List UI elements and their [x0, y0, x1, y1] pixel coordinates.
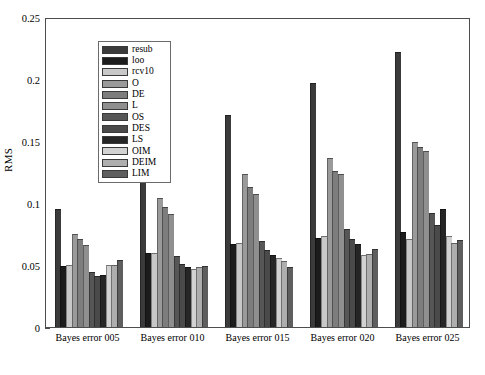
legend-item-label: LIM	[132, 169, 149, 179]
legend-swatch-icon	[102, 170, 128, 178]
legend-swatch-icon	[102, 147, 128, 155]
y-axis-tick-label: 0	[0, 323, 40, 334]
legend-item-LS[interactable]: LS	[101, 134, 168, 145]
legend-item-label: loo	[132, 56, 144, 66]
y-axis-title: RMS	[2, 148, 14, 172]
chart-container: RMS 00.050.10.150.20.25 resubloorcv10ODE…	[0, 0, 485, 375]
legend-swatch-icon	[102, 159, 128, 167]
y-axis-tick-label: 0.05	[0, 261, 40, 272]
legend-item-label: DE	[132, 90, 145, 100]
legend-swatch-icon	[102, 125, 128, 133]
legend-item-resub[interactable]: resub	[101, 44, 168, 55]
legend-item-label: LS	[132, 135, 143, 145]
plot-area: resubloorcv10ODELOSDESLSOIMDEIMLIM	[45, 18, 470, 328]
legend-item-label: DES	[132, 124, 150, 134]
legend-item-L[interactable]: L	[101, 100, 168, 111]
y-axis-tick-label: 0.15	[0, 137, 40, 148]
bar-LIM-bayes-error-015	[287, 267, 293, 327]
legend-item-label: rcv10	[132, 67, 154, 77]
legend-item-label: DEIM	[132, 158, 156, 168]
legend-item-label: resub	[132, 45, 153, 55]
bar-LIM-bayes-error-010	[202, 266, 208, 327]
x-axis-tick-label: Bayes error 025	[396, 332, 460, 343]
legend-item-DE[interactable]: DE	[101, 89, 168, 100]
x-axis-tick-label: Bayes error 020	[311, 332, 375, 343]
y-axis-tick-label: 0.2	[0, 75, 40, 86]
legend-item-rcv10[interactable]: rcv10	[101, 67, 168, 78]
x-axis-tick-label: Bayes error 015	[226, 332, 290, 343]
chart-legend[interactable]: resubloorcv10ODELOSDESLSOIMDEIMLIM	[98, 41, 171, 183]
legend-item-label: L	[132, 101, 138, 111]
legend-swatch-icon	[102, 102, 128, 110]
legend-item-OIM[interactable]: OIM	[101, 146, 168, 157]
legend-item-label: OS	[132, 113, 144, 123]
bar-LIM-bayes-error-020	[372, 249, 378, 327]
bar-LIM-bayes-error-025	[457, 240, 463, 327]
x-axis-tick-label: Bayes error 005	[56, 332, 120, 343]
y-axis-tick-label: 0.1	[0, 199, 40, 210]
y-axis-tick-label: 0.25	[0, 13, 40, 24]
legend-item-LIM[interactable]: LIM	[101, 168, 168, 179]
legend-swatch-icon	[102, 113, 128, 121]
legend-item-label: O	[132, 79, 139, 89]
legend-item-O[interactable]: O	[101, 78, 168, 89]
y-axis-tick-mark	[45, 328, 50, 329]
legend-item-DES[interactable]: DES	[101, 123, 168, 134]
legend-item-OS[interactable]: OS	[101, 112, 168, 123]
x-axis-tick-label: Bayes error 010	[141, 332, 205, 343]
legend-swatch-icon	[102, 68, 128, 76]
bar-LIM-bayes-error-005	[117, 260, 123, 327]
legend-swatch-icon	[102, 136, 128, 144]
legend-item-loo[interactable]: loo	[101, 55, 168, 66]
legend-item-DEIM[interactable]: DEIM	[101, 157, 168, 168]
legend-swatch-icon	[102, 57, 128, 65]
legend-swatch-icon	[102, 91, 128, 99]
legend-swatch-icon	[102, 46, 128, 54]
legend-item-label: OIM	[132, 147, 150, 157]
legend-swatch-icon	[102, 80, 128, 88]
